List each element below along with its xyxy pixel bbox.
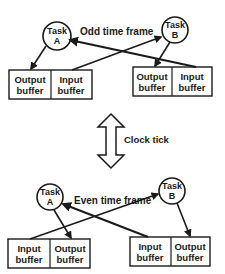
task-b-id: B <box>169 191 176 201</box>
odd-task-b: Task B <box>162 17 188 43</box>
odd-time-frame: Odd time frame Task A Task B Output buff… <box>9 17 212 99</box>
odd-right-buffer-pair: Output buffer Input buffer <box>133 67 212 96</box>
arrow-task-b-to-output <box>177 203 190 236</box>
output-buffer-label: Output <box>136 71 168 82</box>
output-buffer-label: Output <box>14 74 46 85</box>
arrow-task-a-to-output <box>54 210 71 238</box>
task-b-label: Task <box>165 20 186 30</box>
double-arrow-icon <box>98 114 124 168</box>
task-b-label: Task <box>162 181 183 191</box>
arrow-input-to-task-a <box>63 204 148 237</box>
clock-tick: Clock tick <box>98 114 170 168</box>
task-b-id: B <box>172 30 179 40</box>
output-buffer-label-2: buffer <box>139 82 166 93</box>
even-task-a: Task A <box>37 184 63 210</box>
even-left-buffer-pair: Input buffer Output buffer <box>8 239 90 268</box>
input-buffer-label: Input <box>138 241 162 252</box>
task-a-id: A <box>54 36 61 46</box>
odd-task-a: Task A <box>43 22 71 50</box>
input-buffer-label-2: buffer <box>58 85 85 96</box>
task-a-label: Task <box>47 26 68 36</box>
input-buffer-label: Input <box>180 71 204 82</box>
input-buffer-label: Input <box>17 243 41 254</box>
input-buffer-label-2: buffer <box>137 252 164 263</box>
double-buffer-diagram: Odd time frame Task A Task B Output buff… <box>0 0 225 274</box>
even-right-buffer-pair: Input buffer Output buffer <box>130 237 210 266</box>
output-buffer-label: Output <box>54 243 86 254</box>
even-time-frame: Even time frame Task A Task B Input buff… <box>8 178 210 268</box>
arrow-task-b-to-output <box>155 42 170 66</box>
task-a-id: A <box>47 197 54 207</box>
task-a-label: Task <box>40 187 61 197</box>
odd-frame-title: Odd time frame <box>80 26 154 37</box>
output-buffer-label-2: buffer <box>17 85 44 96</box>
input-buffer-label: Input <box>59 74 83 85</box>
arrow-task-a-to-output <box>31 46 46 69</box>
output-buffer-label-2: buffer <box>177 252 204 263</box>
input-buffer-label-2: buffer <box>179 82 206 93</box>
arrow-input-to-task-b <box>72 37 161 70</box>
output-buffer-label: Output <box>174 241 206 252</box>
input-buffer-label-2: buffer <box>16 254 43 265</box>
output-buffer-label-2: buffer <box>57 254 84 265</box>
clock-tick-label: Clock tick <box>124 134 170 145</box>
odd-left-buffer-pair: Output buffer Input buffer <box>9 70 92 99</box>
even-task-b: Task B <box>159 178 185 204</box>
